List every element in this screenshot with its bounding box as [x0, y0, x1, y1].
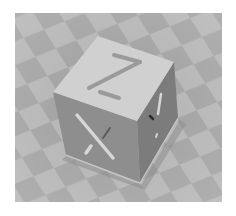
cube-render — [15, 13, 222, 202]
render-viewport — [15, 13, 222, 202]
